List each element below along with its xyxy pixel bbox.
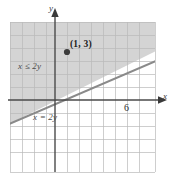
- y-axis-label: y: [49, 4, 53, 13]
- coordinate-plane: [0, 0, 177, 188]
- data-point-1-3: [64, 49, 70, 55]
- boundary-line-label: x = 2y: [33, 113, 57, 122]
- point-coordinate-label: (1, 3): [70, 40, 92, 50]
- x-axis-label: x: [163, 92, 167, 101]
- x-tick-label-6: 6: [124, 103, 129, 113]
- graph-figure: x y 6 (1, 3) x ≤ 2y x = 2y: [0, 0, 177, 188]
- inequality-region-label: x ≤ 2y: [18, 62, 41, 71]
- shaded-region: [10, 22, 155, 124]
